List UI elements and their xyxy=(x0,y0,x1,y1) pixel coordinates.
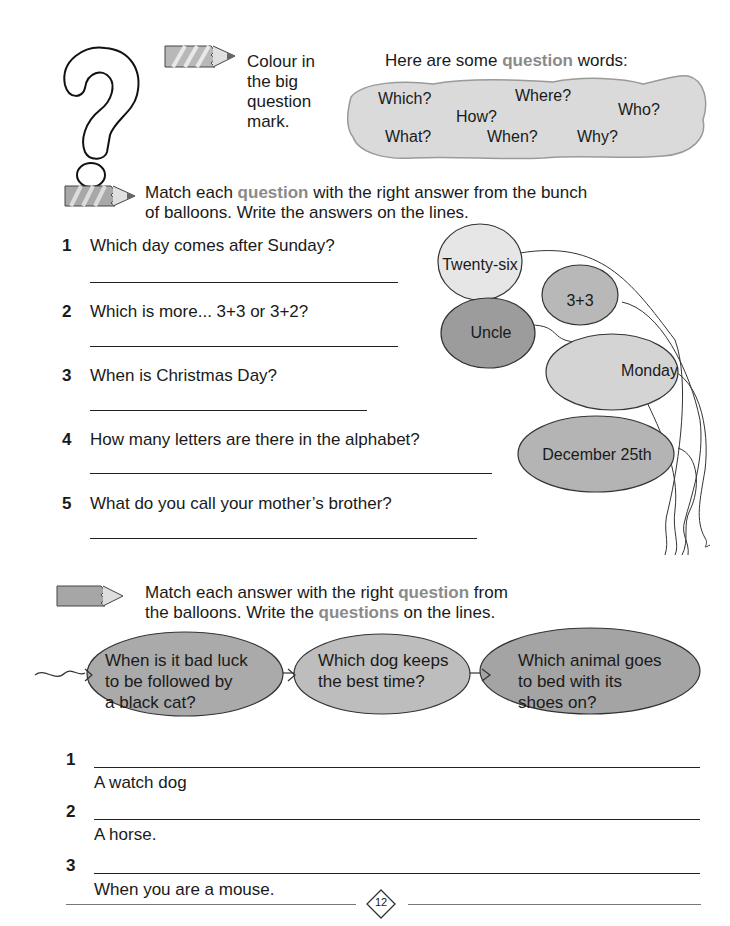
highlight-word: question xyxy=(502,51,573,70)
question-text: Which is more... 3+3 or 3+2? xyxy=(90,302,308,322)
answer-number: 3 xyxy=(66,856,75,876)
instruction-line: Colour in xyxy=(247,52,347,72)
question-number: 4 xyxy=(62,430,71,450)
chain-balloon-3: Which animal goes to bed with its shoes … xyxy=(518,650,662,713)
question-number: 2 xyxy=(62,302,71,322)
answer-line-2[interactable] xyxy=(90,346,398,347)
question-text: What do you call your mother’s brother? xyxy=(90,494,392,514)
intro-text: Here are some xyxy=(385,51,502,70)
section2-instruction: Match each answer with the right questio… xyxy=(145,583,508,623)
footer-rule-left xyxy=(66,904,356,905)
instruction-line: Match each answer with the right questio… xyxy=(145,583,508,603)
balloon-text-line: to be followed by xyxy=(105,671,248,692)
balloon-december-25th: December 25th xyxy=(518,446,676,464)
question-word: Who? xyxy=(618,101,660,119)
pencil-icon xyxy=(163,43,238,71)
question-word: When? xyxy=(487,128,538,146)
answer-text: A horse. xyxy=(94,825,156,845)
question-word: Where? xyxy=(515,87,571,105)
question-line-3[interactable] xyxy=(94,873,700,874)
instruction-text: on the lines. xyxy=(399,603,495,622)
chain-balloon-2: Which dog keeps the best time? xyxy=(318,650,448,692)
balloon-twenty-six: Twenty-six xyxy=(438,256,522,274)
highlight-word: questions xyxy=(319,603,399,622)
intro-text: words: xyxy=(573,51,628,70)
balloon-text-line: Which dog keeps xyxy=(318,650,448,671)
instruction-line: mark. xyxy=(247,112,347,132)
instruction-text: from xyxy=(469,583,508,602)
pencil-icon xyxy=(63,183,138,209)
instruction-text: with the right answer from the bunch xyxy=(308,183,587,202)
question-line-2[interactable] xyxy=(94,819,700,820)
balloon-3-plus-3: 3+3 xyxy=(552,292,608,310)
question-word: How? xyxy=(456,108,497,126)
answer-line-1[interactable] xyxy=(90,282,398,283)
balloon-text-line: shoes on? xyxy=(518,692,662,713)
balloon-monday: Monday xyxy=(568,362,678,380)
answer-number: 1 xyxy=(66,750,75,770)
answer-line-3[interactable] xyxy=(90,410,367,411)
question-line-1[interactable] xyxy=(94,767,700,768)
page-number: 12 xyxy=(366,896,396,908)
question-word: Which? xyxy=(378,90,431,108)
instruction-text: the balloons. Write the xyxy=(145,603,319,622)
answer-text: A watch dog xyxy=(94,773,187,793)
instruction-line: Match each question with the right answe… xyxy=(145,183,587,203)
footer-rule-right xyxy=(408,904,701,905)
balloon-text-line: Which animal goes xyxy=(518,650,662,671)
balloon-text-line: the best time? xyxy=(318,671,448,692)
question-number: 5 xyxy=(62,494,71,514)
section1-instruction: Match each question with the right answe… xyxy=(145,183,587,223)
instruction-line: question xyxy=(247,92,347,112)
question-number: 3 xyxy=(62,366,71,386)
colour-instruction: Colour in the big question mark. xyxy=(247,52,347,132)
question-text: Which day comes after Sunday? xyxy=(90,236,335,256)
instruction-text: Match each answer with the right xyxy=(145,583,398,602)
instruction-line: the balloons. Write the questions on the… xyxy=(145,603,508,623)
answer-text: When you are a mouse. xyxy=(94,880,274,900)
question-text: When is Christmas Day? xyxy=(90,366,277,386)
instruction-line: the big xyxy=(247,72,347,92)
balloon-text-line: a black cat? xyxy=(105,692,248,713)
question-number: 1 xyxy=(62,236,71,256)
question-words-intro: Here are some question words: xyxy=(385,51,628,71)
pencil-icon xyxy=(55,583,125,609)
answer-number: 2 xyxy=(66,802,75,822)
balloon-text-line: to bed with its xyxy=(518,671,662,692)
instruction-text: Match each xyxy=(145,183,238,202)
question-word: What? xyxy=(385,128,431,146)
question-text: How many letters are there in the alphab… xyxy=(90,430,420,450)
chain-balloon-1: When is it bad luck to be followed by a … xyxy=(105,650,248,713)
balloon-uncle: Uncle xyxy=(453,324,529,342)
question-word: Why? xyxy=(577,128,618,146)
highlight-word: question xyxy=(238,183,309,202)
highlight-word: question xyxy=(398,583,469,602)
balloon-text-line: When is it bad luck xyxy=(105,650,248,671)
question-mark-outline-icon[interactable] xyxy=(55,40,150,190)
